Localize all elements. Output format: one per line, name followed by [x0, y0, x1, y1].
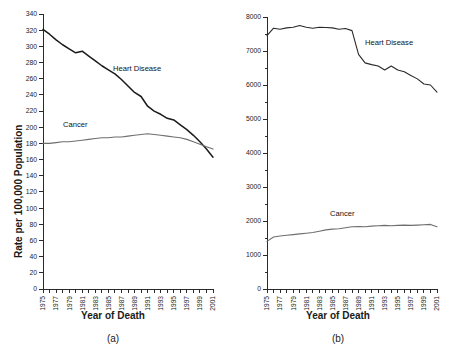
x-tick-label: 1977 — [276, 296, 283, 311]
x-tick-label: 1991 — [368, 296, 375, 311]
series-line-heart-disease — [267, 26, 437, 93]
series-label-cancer-b: Cancer — [330, 209, 355, 218]
x-tick-label: 1991 — [144, 296, 151, 311]
panel-caption-b: (b) — [225, 333, 451, 344]
plot-b-axes — [263, 17, 437, 293]
figure-root: 0204060801001201401601802002202402602803… — [0, 0, 451, 354]
plot-a-series — [43, 29, 213, 157]
y-tick-label: 6000 — [246, 81, 261, 88]
x-tick-label: 1983 — [316, 296, 323, 311]
x-tick-label: 1989 — [355, 296, 362, 311]
plot-a-ytick-labels: 0204060801001201401601802002202402602803… — [26, 10, 38, 292]
series-line-cancer — [267, 224, 437, 241]
x-tick-label: 1979 — [66, 296, 73, 311]
y-tick-label: 220 — [26, 107, 38, 114]
plot-b-svg: 010002000300040005000600070008000 197519… — [225, 0, 451, 330]
x-tick-label: 1989 — [131, 296, 138, 311]
y-tick-label: 60 — [29, 237, 37, 244]
series-label-heart-disease-b: Heart Disease — [365, 38, 413, 47]
y-tick-label: 0 — [33, 285, 37, 292]
plot-b-xtick-labels: 1975197719791981198319851987198919911993… — [263, 296, 440, 311]
x-tick-label: 1981 — [303, 296, 310, 311]
series-line-heart-disease — [43, 29, 213, 157]
x-tick-label: 1999 — [196, 296, 203, 311]
y-tick-label: 120 — [26, 188, 38, 195]
y-tick-label: 5000 — [246, 115, 261, 122]
x-tick-label: 1975 — [263, 296, 270, 311]
y-tick-label: 100 — [26, 205, 38, 212]
y-tick-label: 7000 — [246, 47, 261, 54]
y-axis-title-a: Rate per 100,000 Population — [13, 125, 24, 258]
plot-a-xtick-labels: 1975197719791981198319851987198919911993… — [39, 296, 216, 311]
x-tick-label: 1977 — [52, 296, 59, 311]
chart-panel-b: 010002000300040005000600070008000 197519… — [225, 0, 451, 354]
y-tick-label: 80 — [29, 221, 37, 228]
x-tick-label: 1985 — [105, 296, 112, 311]
y-tick-label: 1000 — [246, 251, 261, 258]
y-tick-label: 280 — [26, 59, 38, 66]
y-tick-label: 20 — [29, 269, 37, 276]
y-tick-label: 320 — [26, 27, 38, 34]
y-tick-label: 240 — [26, 91, 38, 98]
x-tick-label: 1999 — [420, 296, 427, 311]
y-tick-label: 0 — [257, 285, 261, 292]
x-tick-label: 1983 — [92, 296, 99, 311]
y-tick-label: 180 — [26, 140, 38, 147]
x-tick-label: 1975 — [39, 296, 46, 311]
y-tick-label: 140 — [26, 172, 38, 179]
chart-panel-a: 0204060801001201401601802002202402602803… — [0, 0, 226, 354]
x-tick-label: 1997 — [183, 296, 190, 311]
y-tick-label: 260 — [26, 75, 38, 82]
panel-caption-a: (a) — [0, 333, 226, 344]
y-tick-label: 160 — [26, 156, 38, 163]
series-label-cancer-a: Cancer — [63, 120, 88, 129]
x-tick-label: 1979 — [290, 296, 297, 311]
x-axis-title-a: Year of Death — [0, 310, 226, 321]
x-axis-title-b: Year of Death — [225, 310, 451, 321]
y-tick-label: 4000 — [246, 149, 261, 156]
x-tick-label: 2001 — [433, 296, 440, 311]
series-label-heart-disease-a: Heart Disease — [113, 64, 161, 73]
y-tick-label: 2000 — [246, 217, 261, 224]
plot-b-ytick-labels: 010002000300040005000600070008000 — [246, 13, 261, 292]
x-tick-label: 1987 — [118, 296, 125, 311]
x-tick-label: 1995 — [394, 296, 401, 311]
y-tick-label: 300 — [26, 43, 38, 50]
y-tick-label: 340 — [26, 10, 38, 17]
x-tick-label: 1987 — [342, 296, 349, 311]
x-tick-label: 1981 — [79, 296, 86, 311]
y-tick-label: 3000 — [246, 183, 261, 190]
x-tick-label: 1993 — [157, 296, 164, 311]
x-tick-label: 2001 — [209, 296, 216, 311]
plot-a-axes — [39, 14, 213, 293]
x-tick-label: 1997 — [407, 296, 414, 311]
x-tick-label: 1995 — [170, 296, 177, 311]
y-tick-label: 40 — [29, 253, 37, 260]
x-tick-label: 1985 — [329, 296, 336, 311]
plot-a-svg: 0204060801001201401601802002202402602803… — [0, 0, 226, 330]
series-line-cancer — [43, 134, 213, 149]
x-tick-label: 1993 — [381, 296, 388, 311]
y-tick-label: 200 — [26, 124, 38, 131]
y-tick-label: 8000 — [246, 13, 261, 20]
